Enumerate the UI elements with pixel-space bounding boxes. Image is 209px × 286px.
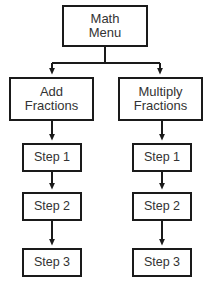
node-math-menu[interactable]: Math Menu <box>62 5 148 47</box>
node-multiply-step-2-label: Step 2 <box>144 200 180 214</box>
node-math-menu-label: Math Menu <box>89 12 122 40</box>
node-multiply-fractions[interactable]: Multiply Fractions <box>118 77 203 121</box>
node-add-fractions-label: Add Fractions <box>25 85 78 113</box>
node-multiply-step-2[interactable]: Step 2 <box>132 192 192 221</box>
node-add-step-3-label: Step 3 <box>34 256 70 270</box>
node-add-step-1[interactable]: Step 1 <box>22 143 82 172</box>
node-multiply-fractions-label: Multiply Fractions <box>134 85 187 113</box>
node-add-fractions[interactable]: Add Fractions <box>9 77 94 121</box>
node-multiply-step-3-label: Step 3 <box>144 256 180 270</box>
node-multiply-step-1-label: Step 1 <box>144 151 180 165</box>
node-add-step-2-label: Step 2 <box>34 200 70 214</box>
flowchart-canvas: Math Menu Add Fractions Step 1 Step 2 St… <box>0 0 209 286</box>
node-multiply-step-3[interactable]: Step 3 <box>132 248 192 277</box>
node-add-step-3[interactable]: Step 3 <box>22 248 82 277</box>
node-multiply-step-1[interactable]: Step 1 <box>132 143 192 172</box>
node-add-step-1-label: Step 1 <box>34 151 70 165</box>
node-add-step-2[interactable]: Step 2 <box>22 192 82 221</box>
